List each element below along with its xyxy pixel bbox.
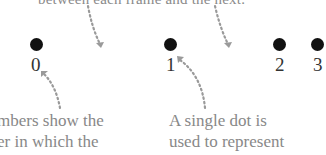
top-caption: between each frame and the next. xyxy=(38,0,245,8)
frame-dot-3 xyxy=(311,38,324,51)
frame-dot-2 xyxy=(273,38,286,51)
caption-right: A single dot is used to represent xyxy=(169,110,284,152)
caption-left: mbers show the er in which the xyxy=(0,110,104,152)
dotted-arrow-icon xyxy=(44,74,60,108)
frame-dot-1 xyxy=(164,38,177,51)
arrowhead-icon xyxy=(224,42,232,48)
caption-left-line2: er in which the xyxy=(0,131,104,152)
dotted-arrow-icon xyxy=(215,6,228,44)
caption-right-line1: A single dot is xyxy=(169,110,284,131)
caption-right-line2: used to represent xyxy=(169,131,284,152)
arrowhead-icon xyxy=(177,56,184,63)
arrowhead-icon xyxy=(41,71,48,77)
frame-number-1: 1 xyxy=(166,55,176,74)
dotted-arrow-icon xyxy=(180,60,205,108)
arrowhead-icon xyxy=(96,42,104,48)
caption-left-line1: mbers show the xyxy=(0,110,104,131)
frame-number-2: 2 xyxy=(275,55,285,74)
frame-number-3: 3 xyxy=(313,55,323,74)
frame-dot-0 xyxy=(30,38,43,51)
frame-number-0: 0 xyxy=(31,55,41,74)
dotted-arrow-icon xyxy=(88,6,100,44)
